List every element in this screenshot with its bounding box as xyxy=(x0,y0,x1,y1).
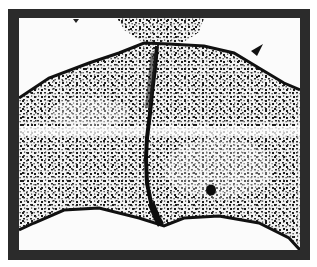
dark-spot xyxy=(206,185,216,196)
micrograph xyxy=(19,18,300,250)
tissue-section xyxy=(19,18,300,250)
image-frame xyxy=(8,9,310,260)
